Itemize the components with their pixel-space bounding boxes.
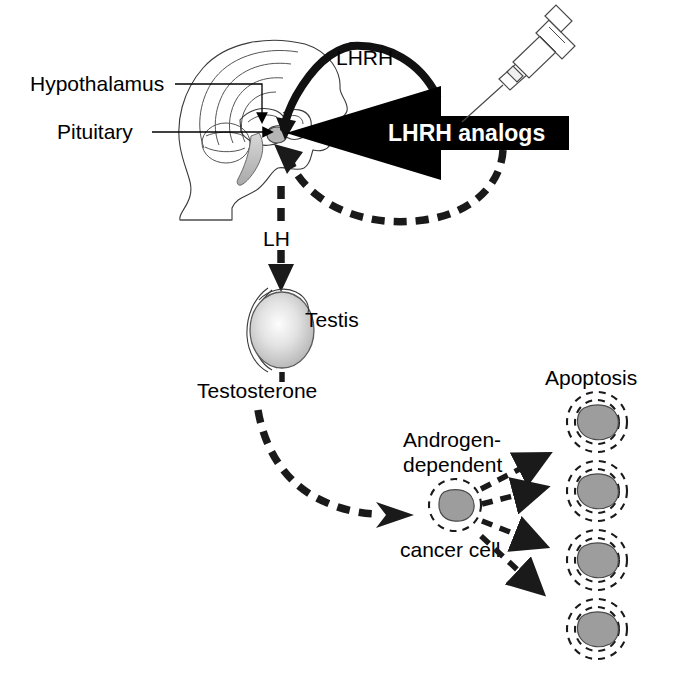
apoptosis-arrows <box>481 457 543 589</box>
label-testosterone: Testosterone <box>197 379 317 402</box>
label-lhrh: LHRH <box>336 46 393 69</box>
diagram-svg: Hypothalamus Pituitary LHRH LHRH analogs… <box>0 0 679 683</box>
apoptotic-cell-icon <box>567 599 627 659</box>
testosterone-arrow <box>258 410 414 528</box>
apoptotic-cell-icon <box>567 461 627 521</box>
label-testis: Testis <box>305 308 359 331</box>
figure-canvas: Hypothalamus Pituitary LHRH LHRH analogs… <box>0 0 679 683</box>
testis-icon <box>247 288 314 372</box>
apoptotic-cell-icon <box>567 530 627 590</box>
syringe-icon <box>462 5 575 122</box>
label-androgen-dependent-2: dependent <box>403 453 502 476</box>
label-pituitary: Pituitary <box>57 120 133 143</box>
label-lhrh-analogs: LHRH analogs <box>388 120 545 146</box>
label-lh: LH <box>263 227 290 250</box>
label-apoptosis: Apoptosis <box>545 366 637 389</box>
label-hypothalamus: Hypothalamus <box>30 72 164 95</box>
label-androgen-dependent-1: Androgen- <box>403 428 501 451</box>
apoptotic-cell-icon <box>567 392 627 452</box>
cancer-cell-icon <box>429 479 481 531</box>
